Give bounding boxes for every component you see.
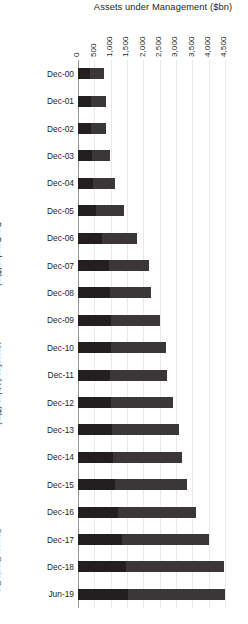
bar-row: Dec-03 — [78, 150, 225, 161]
bar-segment-dry-powder — [78, 315, 111, 326]
bar-segment-dry-powder — [78, 205, 96, 216]
stacked-bar — [78, 233, 137, 244]
bar-segment-unrealized-value — [110, 370, 167, 381]
category-label-dec-01: Dec-01 — [47, 96, 74, 106]
bar-segment-dry-powder — [78, 370, 110, 381]
bar-segment-dry-powder — [78, 96, 91, 107]
category-label-dec-14: Dec-14 — [47, 452, 74, 462]
stacked-bar — [78, 260, 149, 271]
bar-row: Dec-05 — [78, 205, 225, 216]
bar-segment-dry-powder — [78, 452, 113, 463]
bar-segment-dry-powder — [78, 68, 90, 79]
stacked-bar — [78, 178, 115, 189]
x-tick-label-1500: 1,500 — [121, 36, 130, 57]
bar-segment-unrealized-value — [92, 150, 109, 161]
bar-row: Dec-02 — [78, 123, 225, 134]
category-label-dec-17: Dec-17 — [47, 535, 74, 545]
bar-segment-unrealized-value — [118, 507, 196, 518]
bar-row: Dec-04 — [78, 178, 225, 189]
bar-row: Dec-11 — [78, 370, 225, 381]
bar-segment-dry-powder — [78, 342, 111, 353]
bar-row: Jun-19 — [78, 589, 225, 600]
x-axis-tick-labels: 05001,0001,5002,0002,5003,0003,5004,0004… — [78, 0, 225, 60]
category-label-dec-16: Dec-16 — [47, 507, 74, 517]
category-label-dec-15: Dec-15 — [47, 480, 74, 490]
stacked-bar — [78, 452, 182, 463]
bar-segment-unrealized-value — [115, 479, 188, 490]
category-label-dec-00: Dec-00 — [47, 69, 74, 79]
category-label-dec-08: Dec-08 — [47, 288, 74, 298]
bar-row: Dec-09 — [78, 315, 225, 326]
category-label-jun-19: Jun-19 — [48, 589, 74, 599]
x-tick-label-4000: 4,000 — [203, 36, 212, 57]
bar-segment-unrealized-value — [111, 315, 160, 326]
chart-container: Assets under Management ($bn) 05001,0001… — [0, 0, 248, 624]
bar-row: Dec-00 — [78, 68, 225, 79]
stacked-bar — [78, 561, 224, 572]
bar-segment-unrealized-value — [126, 561, 224, 572]
category-label-dec-02: Dec-02 — [47, 124, 74, 134]
x-tick-label-500: 500 — [89, 43, 98, 57]
bar-segment-dry-powder — [78, 424, 112, 435]
category-label-dec-13: Dec-13 — [47, 425, 74, 435]
bar-segment-dry-powder — [78, 123, 91, 134]
gridline-4500 — [225, 60, 226, 608]
stacked-bar — [78, 68, 104, 79]
stacked-bar — [78, 150, 110, 161]
stacked-bar — [78, 342, 166, 353]
category-label-dec-10: Dec-10 — [47, 343, 74, 353]
bar-segment-unrealized-value — [122, 534, 210, 545]
bar-row: Dec-01 — [78, 96, 225, 107]
category-label-dec-11: Dec-11 — [48, 370, 74, 380]
stacked-bar — [78, 397, 173, 408]
stacked-bar — [78, 370, 167, 381]
bar-segment-dry-powder — [78, 150, 92, 161]
bar-segment-unrealized-value — [128, 589, 225, 600]
category-label-dec-07: Dec-07 — [47, 261, 74, 271]
bar-row: Dec-07 — [78, 260, 225, 271]
category-label-dec-05: Dec-05 — [47, 206, 74, 216]
bar-segment-unrealized-value — [111, 397, 173, 408]
category-label-dec-09: Dec-09 — [47, 315, 74, 325]
stacked-bar — [78, 479, 187, 490]
bar-segment-dry-powder — [78, 507, 118, 518]
bar-segment-unrealized-value — [93, 178, 115, 189]
bar-row: Dec-18 — [78, 561, 225, 572]
category-label-dec-06: Dec-06 — [47, 233, 74, 243]
bar-segment-unrealized-value — [90, 68, 104, 79]
legend-label-unrealized-value: Unrealized Value ($bn) — [0, 342, 2, 425]
x-tick-label-1000: 1,000 — [105, 36, 114, 57]
bar-segment-unrealized-value — [110, 287, 151, 298]
stacked-bar — [78, 205, 124, 216]
bar-row: Dec-14 — [78, 452, 225, 463]
bar-segment-unrealized-value — [91, 123, 106, 134]
bar-segment-dry-powder — [78, 589, 128, 600]
legend-item-dry-powder: Dry Powder ($bn) — [0, 214, 2, 286]
bar-row: Dec-15 — [78, 479, 225, 490]
plot-area: Dec-00Dec-01Dec-02Dec-03Dec-04Dec-05Dec-… — [78, 60, 225, 608]
bar-row: Dec-16 — [78, 507, 225, 518]
stacked-bar — [78, 315, 160, 326]
x-tick-label-0: 0 — [72, 52, 81, 57]
bar-segment-dry-powder — [78, 561, 126, 572]
bar-segment-unrealized-value — [109, 260, 149, 271]
stacked-bar — [78, 424, 179, 435]
bar-segment-unrealized-value — [102, 233, 137, 244]
bar-segment-unrealized-value — [96, 205, 124, 216]
stacked-bar — [78, 589, 225, 600]
stacked-bar — [78, 287, 151, 298]
category-label-dec-03: Dec-03 — [47, 151, 74, 161]
bar-rows: Dec-00Dec-01Dec-02Dec-03Dec-04Dec-05Dec-… — [78, 60, 225, 608]
bar-segment-unrealized-value — [111, 342, 167, 353]
bar-segment-dry-powder — [78, 178, 93, 189]
bar-segment-dry-powder — [78, 260, 109, 271]
stacked-bar — [78, 534, 209, 545]
bar-row: Dec-06 — [78, 233, 225, 244]
stacked-bar — [78, 507, 196, 518]
bar-row: Dec-08 — [78, 287, 225, 298]
legend-item-unrealized-value: Unrealized Value ($bn) — [0, 334, 2, 425]
legend-label-dry-powder: Dry Powder ($bn) — [0, 222, 2, 286]
bar-row: Dec-10 — [78, 342, 225, 353]
source-note: Source: Preqin Pro — [0, 528, 3, 592]
x-tick-label-4500: 4,500 — [219, 36, 228, 57]
